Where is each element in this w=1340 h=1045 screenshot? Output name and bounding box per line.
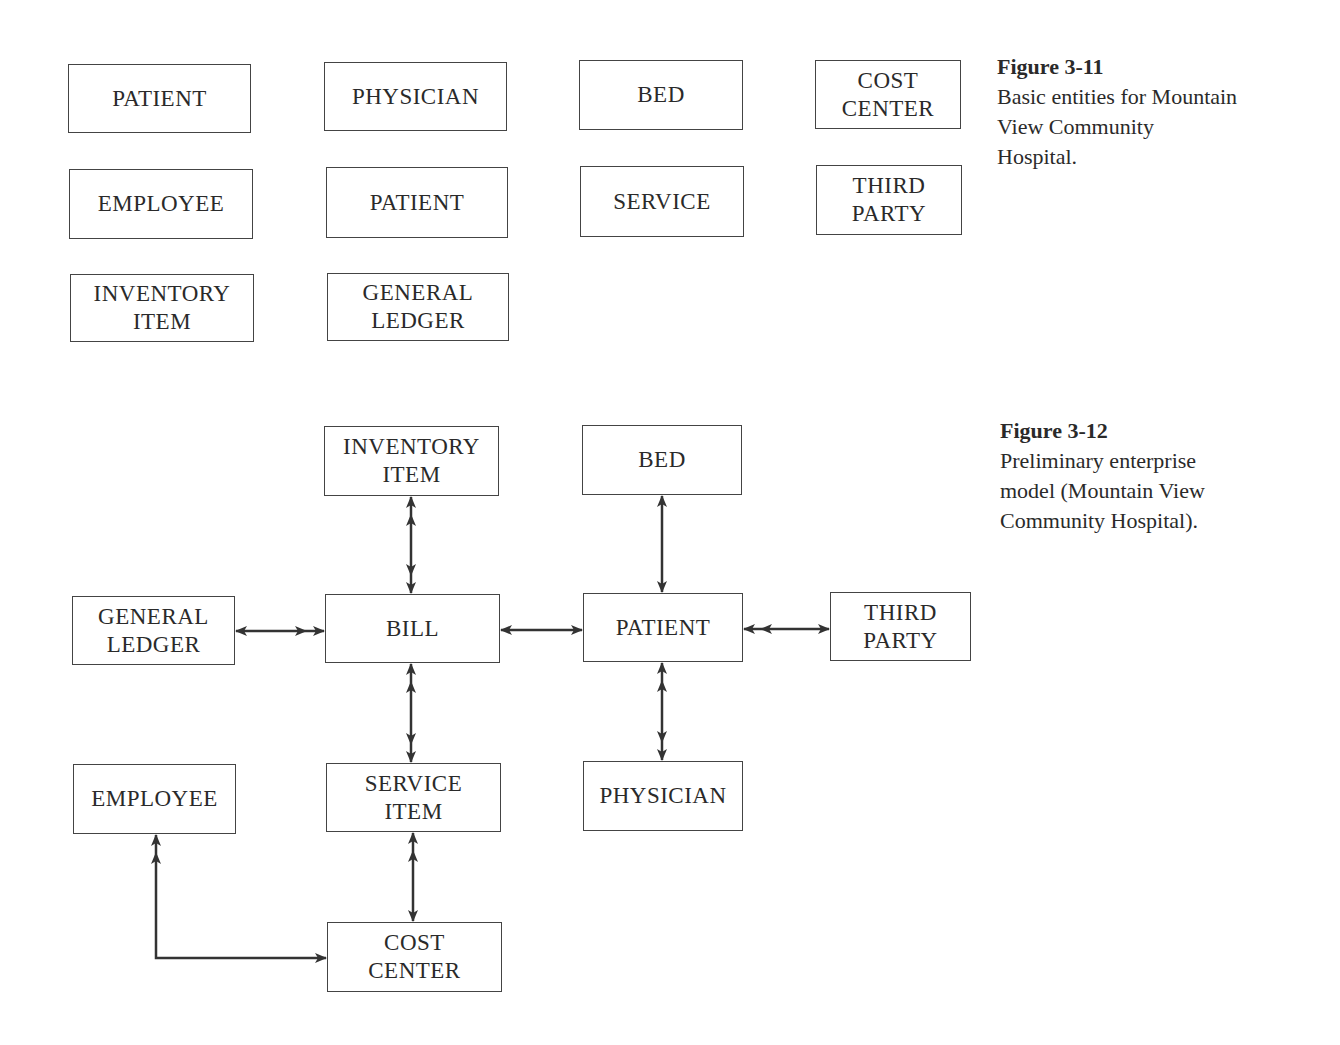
entity-general-ledger: GENERAL LEDGER — [72, 596, 235, 665]
entity-physician: PHYSICIAN — [583, 761, 743, 831]
entity-label: PATIENT — [616, 614, 711, 642]
entity-third-party: THIRD PARTY — [816, 165, 962, 235]
entity-label: PATIENT — [112, 85, 207, 113]
rel-employee-costcenter — [156, 835, 326, 958]
entity-label: EMPLOYEE — [91, 785, 218, 813]
figure-label: Figure 3-12 — [1000, 416, 1205, 446]
entity-label: GENERAL LEDGER — [98, 603, 209, 659]
entity-label: GENERAL LEDGER — [363, 279, 474, 335]
entity-label: BED — [637, 81, 685, 109]
entity-cost-center: COST CENTER — [815, 60, 961, 129]
entity-inventory-item: INVENTORY ITEM — [70, 274, 254, 342]
entity-label: EMPLOYEE — [98, 190, 225, 218]
entity-label: THIRD PARTY — [863, 599, 937, 655]
entity-label: COST CENTER — [368, 929, 460, 985]
entity-bed: BED — [582, 425, 742, 495]
figure-label: Figure 3-11 — [997, 52, 1237, 82]
entity-physician: PHYSICIAN — [324, 62, 507, 131]
entity-label: PATIENT — [370, 189, 465, 217]
caption-text: Basic entities for Mountain View Communi… — [997, 82, 1237, 172]
entity-label: PHYSICIAN — [599, 782, 726, 810]
entity-employee: EMPLOYEE — [69, 169, 253, 239]
entity-label: INVENTORY ITEM — [94, 280, 231, 336]
figure-3-11-caption: Figure 3-11 Basic entities for Mountain … — [997, 52, 1237, 172]
figure-3-12-caption: Figure 3-12 Preliminary enterprise model… — [1000, 416, 1205, 536]
entity-patient: PATIENT — [583, 593, 743, 662]
entity-service: SERVICE — [580, 166, 744, 237]
entity-label: COST CENTER — [842, 67, 934, 123]
entity-inventory-item: INVENTORY ITEM — [324, 426, 499, 496]
entity-label: BED — [638, 446, 686, 474]
entity-bed: BED — [579, 60, 743, 130]
entity-label: PHYSICIAN — [352, 83, 479, 111]
entity-label: SERVICE ITEM — [365, 770, 463, 826]
entity-patient: PATIENT — [68, 64, 251, 133]
entity-bill: BILL — [325, 594, 500, 663]
entity-label: BILL — [386, 615, 439, 643]
entity-patient-2: PATIENT — [326, 167, 508, 238]
entity-employee: EMPLOYEE — [73, 764, 236, 834]
entity-general-ledger: GENERAL LEDGER — [327, 273, 509, 341]
entity-third-party: THIRD PARTY — [830, 592, 971, 661]
caption-text: Preliminary enterprise model (Mountain V… — [1000, 446, 1205, 536]
entity-label: INVENTORY ITEM — [343, 433, 480, 489]
entity-service-item: SERVICE ITEM — [326, 763, 501, 832]
entity-label: THIRD PARTY — [852, 172, 926, 228]
entity-label: SERVICE — [613, 188, 711, 216]
entity-cost-center: COST CENTER — [327, 922, 502, 992]
